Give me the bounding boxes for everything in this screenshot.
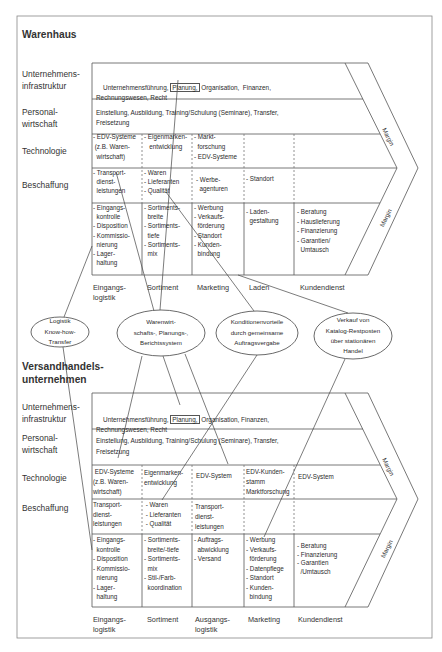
primary-cell-kundendienst: - Beratung - Finanzierung - Garantien /U… (297, 542, 337, 576)
tech-cell-kundendienst: EDV-System (298, 472, 334, 482)
value-chain-synergy-diagram: Warenhaus Unternehmens- infrastruktur Pe… (0, 0, 442, 652)
row-label-infrastruktur: Unternehmens- infrastruktur (22, 401, 80, 425)
column-label-ausgangslogistik: Ausgangs- logistik (195, 615, 230, 635)
beschaffung-cell-eingangslogistik: Transport- dienst- leistungen (93, 500, 122, 529)
primary-cell-ausgangslogistik: - Auftrags- abwicklung - Versand (194, 535, 229, 564)
section-title-versandhandel: Versandhandels- unternehmen (22, 360, 104, 386)
synergy-konditionenvorteile: Konditionenvorteile durch gemeinsame Auf… (216, 311, 298, 355)
beschaffung-cell-eingangslogistik: - Transport- dienst- leistungen (93, 168, 126, 196)
column-label-sortiment: Sortiment (147, 615, 178, 625)
infrastruktur-text-cont: Organisation, Finanzen, (200, 416, 270, 423)
infrastruktur-text-cont: Organisation, Finanzen, (200, 84, 271, 91)
personal-content: Einstellung, Ausbildung, Training/Schulu… (96, 108, 279, 128)
primary-cell-sortiment: - Sortiments- breite - Sortiments- tiefe… (144, 203, 180, 258)
primary-cell-eingangslogistik: - Eingangs- kontrolle - Disposition - Ko… (93, 203, 130, 267)
beschaffung-cell-sortiment: - Waren - Lieferanten - Qualität (144, 500, 181, 529)
infrastruktur-text: Unternehmensführung, (103, 416, 170, 423)
primary-cell-sortiment: - Sortiments- breite/-tiefe - Sortiments… (144, 535, 182, 592)
column-label-kundendienst: Kundendienst (298, 615, 343, 625)
beschaffung-cell-laden: - Standort (246, 174, 274, 183)
row-label-personal: Personal- wirtschaft (22, 106, 58, 130)
infrastruktur-content: Unternehmensführung, Planung, Organisati… (96, 73, 271, 113)
tech-cell-marketing: - Markt- forschung - EDV-Systeme (194, 132, 237, 162)
infrastruktur-text-line2: Rechnungswesen, Recht (96, 94, 167, 101)
tech-cell-ausgangslogistik: EDV-System (196, 471, 232, 481)
tech-cell-sortiment: Eigenmarken- entwicklung (144, 468, 183, 488)
row-label-infrastruktur: Unternehmens- infrastruktur (22, 68, 80, 92)
tech-cell-marketing: EDV-Kunden- stamm Marktforschung (246, 467, 289, 497)
synergy-warenwirtschaftssystem: Warenwirt- schafts-, Planungs-, Berichts… (117, 310, 205, 356)
beschaffung-cell-marketing: - Werbe- agenturen (196, 175, 228, 193)
row-label-personal: Personal- wirtschaft (22, 432, 58, 456)
column-label-laden: Laden (249, 283, 269, 293)
column-label-marketing: Marketing (248, 615, 280, 625)
primary-cell-marketing: - Werbung - Verkaufs- förderung - Datenp… (246, 535, 284, 602)
tech-cell-sortiment: - Eigenmarken- entwicklung (144, 132, 187, 152)
beschaffung-cell-ausgangslogistik: Transport- dienst- leistungen (195, 502, 224, 531)
column-label-marketing: Marketing (197, 283, 229, 293)
column-label-kundendienst: Kundendienst (300, 283, 345, 293)
row-label-beschaffung: Beschaffung (22, 179, 68, 191)
row-label-technologie: Technologie (22, 472, 67, 484)
primary-cell-laden: - Laden- gestaltung (246, 207, 279, 225)
row-label-technologie: Technologie (22, 145, 67, 157)
row-label-beschaffung: Beschaffung (22, 502, 68, 514)
beschaffung-cell-sortiment: - Waren - Lieferanten - Qualität (144, 168, 179, 196)
planung-highlight: Planung, (170, 415, 199, 424)
planung-highlight: Planung, (170, 83, 199, 92)
tech-cell-eingangslogistik: EDV-Systeme (z.B. Waren- wirtschaft) (93, 467, 134, 497)
primary-cell-eingangslogistik: - Eingangs- kontrolle - Disposition - Ko… (93, 535, 130, 602)
synergy-restposten-verkauf: Verkauf von Katalog-Restposten über stat… (314, 313, 392, 359)
column-label-sortiment: Sortiment (147, 283, 178, 293)
column-label-eingangslogistik: Eingangs- logistik (93, 615, 126, 635)
infrastruktur-text: Unternehmensführung, (103, 84, 170, 91)
infrastruktur-text-line2: Rechnungswesen, Recht (96, 426, 167, 433)
primary-cell-kundendienst: - Beratung - Hauslieferung - Finanzierun… (297, 207, 340, 255)
synergy-logistik-know-how: Logistik Know-how- Transfer (31, 317, 89, 347)
personal-content: Einstellung, Ausbildung, Training/Schulu… (96, 436, 279, 457)
tech-cell-eingangslogistik: - EDV-Systeme (z.B. Waren- wirtschaft) (93, 132, 136, 162)
primary-cell-marketing: - Werbung - Verkaufs- förderung - Stando… (194, 203, 224, 258)
column-label-eingangslogistik: Eingangs- logistik (93, 283, 126, 303)
section-title-warenhaus: Warenhaus (22, 28, 77, 41)
